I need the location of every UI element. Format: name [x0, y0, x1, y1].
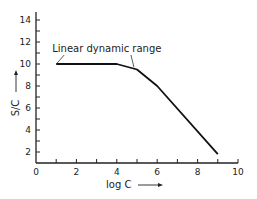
y-axis-label: S/C	[10, 100, 21, 117]
x-tick-label: 0	[33, 167, 39, 177]
annotation-pointer-right	[131, 55, 134, 67]
y-tick-label: 12	[20, 37, 31, 47]
chart: 14121086420246810 Linear dynamic range l…	[0, 0, 257, 199]
x-tick-label: 4	[114, 167, 120, 177]
x-tick-label: 8	[195, 167, 201, 177]
x-axis-label: log C	[106, 179, 131, 190]
data-line	[56, 64, 218, 154]
x-tick-label: 2	[74, 167, 80, 177]
annotation-text: Linear dynamic range	[52, 43, 161, 54]
y-tick-label: 4	[25, 125, 31, 135]
y-tick-label: 6	[25, 103, 31, 113]
x-tick-label: 6	[154, 167, 160, 177]
y-tick-label: 8	[25, 81, 31, 91]
ticks: 14121086420246810	[20, 15, 244, 177]
y-axis-arrowhead-icon	[14, 70, 18, 75]
y-tick-label: 2	[25, 147, 31, 157]
annotation-pointer-left	[57, 55, 64, 63]
axes	[36, 12, 238, 163]
x-tick-label: 10	[232, 167, 244, 177]
data-series	[56, 64, 218, 154]
x-axis-arrowhead-icon	[158, 183, 163, 187]
y-tick-label: 14	[20, 15, 32, 25]
y-tick-label: 10	[20, 59, 32, 69]
